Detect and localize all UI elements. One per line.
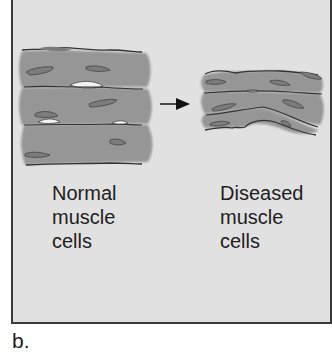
normal-cell-2 xyxy=(19,87,152,125)
muscle-cells-illustration xyxy=(0,0,332,356)
label-line: Normal xyxy=(52,181,116,205)
progression-arrow-icon xyxy=(160,98,190,110)
label-line: Diseased xyxy=(220,181,303,205)
label-line: cells xyxy=(52,229,116,253)
normal-muscle-cells xyxy=(19,47,153,165)
diseased-muscle-cells xyxy=(201,71,324,135)
label-line: cells xyxy=(220,229,303,253)
normal-cells-label: Normal muscle cells xyxy=(52,181,116,253)
label-line: muscle xyxy=(52,205,116,229)
label-line: muscle xyxy=(220,205,303,229)
panel-letter: b. xyxy=(12,329,30,353)
diseased-cells-label: Diseased muscle cells xyxy=(220,181,303,253)
normal-cell-3 xyxy=(21,124,152,165)
